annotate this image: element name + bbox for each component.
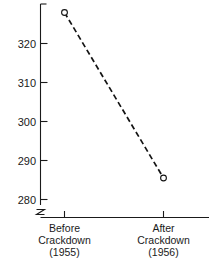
x-category-label-before-line3: (1955)	[49, 246, 79, 258]
x-category-label-after-line1: After	[152, 222, 175, 234]
data-point-before-crackdown	[62, 10, 68, 16]
y-axis-break-icon	[37, 210, 45, 215]
x-category-label-after-line2: Crackdown	[137, 234, 190, 246]
x-category-label-before-line2: Crackdown	[38, 234, 91, 246]
y-tick-label-300: 300	[18, 116, 36, 128]
x-category-label-before-line1: Before	[49, 222, 80, 234]
y-tick-label-280: 280	[18, 194, 36, 206]
chart-plot-area: 320 310 300 290 280 Before Crackdown (19…	[0, 0, 211, 271]
y-tick-label-310: 310	[18, 77, 36, 89]
chart-figure: 320 310 300 290 280 Before Crackdown (19…	[0, 0, 211, 271]
x-category-label-after-line3: (1956)	[148, 246, 178, 258]
y-tick-label-320: 320	[18, 38, 36, 50]
y-tick-label-290: 290	[18, 155, 36, 167]
data-point-after-crackdown	[161, 175, 167, 181]
series-line-traffic-fatalities	[65, 13, 164, 179]
